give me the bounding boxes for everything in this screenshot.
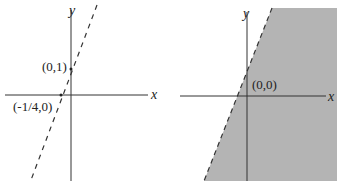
left-x-intercept-label: (-1/4,0) [13,99,52,114]
left-y-axis-label: y [67,3,76,18]
left-graph: y x (0,1) (-1/4,0) [5,3,158,181]
right-test-point-label: (0,0) [252,77,277,92]
left-y-intercept-point [70,68,73,71]
left-y-intercept-label: (0,1) [42,59,67,74]
left-x-intercept-point [60,94,63,97]
right-shaded-region [204,8,337,181]
left-boundary-line [31,5,97,180]
left-x-axis-label: x [150,87,158,102]
right-y-axis-label: y [241,6,250,21]
graphs-canvas: y x (0,1) (-1/4,0) y x (0,0) [0,0,339,184]
right-x-axis-label: x [327,89,335,104]
right-graph: y x (0,0) [180,6,337,181]
